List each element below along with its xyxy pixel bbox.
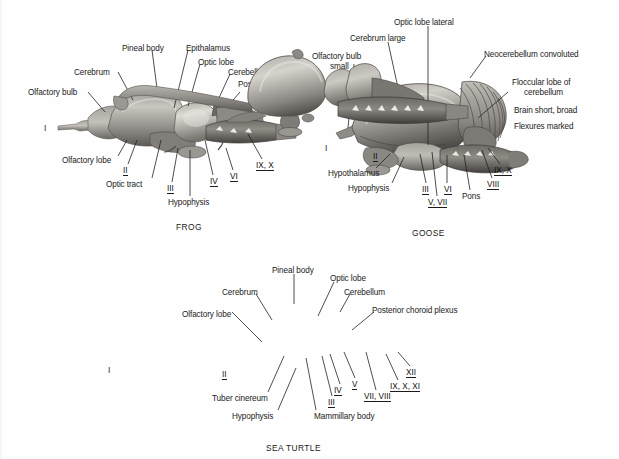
leader-line bbox=[256, 294, 272, 320]
panel-sea-turtle: Pineal bodyOptic lobeCerebrumCerebellumO… bbox=[0, 248, 619, 459]
label-sea-turtle-pineal-body: Pineal body bbox=[272, 266, 314, 276]
nerve-numeral-sea-turtle-ix-x-xi: IX, X, XI bbox=[390, 382, 420, 392]
leader-line bbox=[268, 356, 284, 392]
sea-turtle-brain-illustration bbox=[0, 0, 619, 211]
nerve-numeral-sea-turtle-iv: IV bbox=[334, 386, 342, 396]
nerve-numeral-sea-turtle-xii: XII bbox=[406, 368, 416, 378]
nerve-numeral-sea-turtle-i: I bbox=[108, 366, 110, 375]
nerve-numeral-sea-turtle-iii: III bbox=[328, 398, 335, 408]
leader-line bbox=[386, 354, 398, 380]
label-sea-turtle-mammillary-body: Mammillary body bbox=[314, 412, 374, 422]
leader-line bbox=[322, 356, 332, 396]
label-sea-turtle-cerebellum: Cerebellum bbox=[344, 288, 385, 298]
label-sea-turtle-posterior-choroid-plexus: Posterior choroid plexus bbox=[372, 306, 457, 316]
label-sea-turtle-optic-lobe: Optic lobe bbox=[330, 274, 366, 284]
label-sea-turtle-tuber-cinereum: Tuber cinereum bbox=[212, 394, 268, 404]
panel-caption-goose: GOOSE bbox=[412, 228, 445, 238]
nerve-numeral-sea-turtle-v: V bbox=[352, 380, 357, 390]
leader-line bbox=[318, 282, 334, 316]
sea-turtle-leader-lines bbox=[0, 248, 619, 459]
panel-caption-sea-turtle: SEA TURTLE bbox=[266, 443, 321, 453]
label-sea-turtle-hypophysis: Hypophysis bbox=[232, 412, 273, 422]
leader-line bbox=[352, 312, 374, 330]
leader-line bbox=[232, 312, 262, 342]
leader-line bbox=[330, 354, 340, 384]
leader-line bbox=[344, 352, 355, 378]
anatomy-figure-page: Olfactory bulbCerebrumPineal bodyEpithal… bbox=[0, 0, 619, 459]
leader-line bbox=[366, 352, 376, 390]
leader-line bbox=[398, 352, 410, 366]
label-sea-turtle-olfactory-lobe: Olfactory lobe bbox=[182, 310, 231, 320]
leader-line bbox=[278, 368, 296, 410]
nerve-numeral-sea-turtle-ii: II bbox=[222, 370, 227, 380]
nerve-numeral-sea-turtle-vii-viii: VII, VIII bbox=[364, 392, 391, 402]
leader-line bbox=[306, 358, 316, 410]
label-sea-turtle-cerebrum: Cerebrum bbox=[222, 288, 258, 298]
